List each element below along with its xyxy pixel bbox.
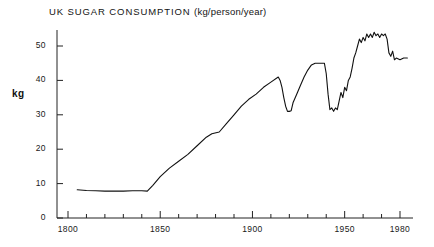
x-axis-tick-label: 1900 xyxy=(232,224,272,234)
y-axis-tick-label: 10 xyxy=(22,178,46,188)
x-axis-tick-label: 1950 xyxy=(325,224,365,234)
data-series-line xyxy=(77,32,407,191)
y-axis-tick-label: 20 xyxy=(22,143,46,153)
y-axis-tick-label: 50 xyxy=(22,40,46,50)
x-axis-tick-label: 1850 xyxy=(140,224,180,234)
sugar-consumption-chart-figure: UK SUGAR CONSUMPTION (kg/person/year) kg… xyxy=(0,0,434,247)
y-axis-tick-label: 30 xyxy=(22,109,46,119)
x-axis-tick-label: 1800 xyxy=(48,224,88,234)
y-axis-ticks xyxy=(57,46,63,218)
y-axis-tick-label: 0 xyxy=(22,212,46,222)
x-axis-ticks xyxy=(68,211,400,218)
y-axis-tick-label: 40 xyxy=(22,74,46,84)
axes xyxy=(57,30,413,218)
x-axis-tick-label: 1980 xyxy=(380,224,420,234)
plot-area xyxy=(0,0,434,247)
